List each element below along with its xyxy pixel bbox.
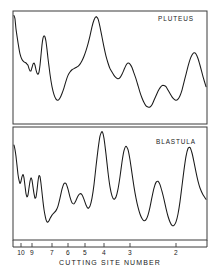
trace-line-blastula	[14, 132, 206, 226]
x-axis-ticks: 109765432	[17, 243, 178, 256]
x-tick-label: 9	[30, 249, 34, 256]
panel-label-pluteus: PLUTEUS	[158, 15, 194, 22]
x-tick-label: 2	[174, 249, 178, 256]
x-tick-label: 4	[102, 249, 106, 256]
x-tick-label: 6	[66, 249, 70, 256]
figure-container: PLUTEUS BLASTULA 109765432 CUTTING SITE …	[0, 0, 222, 272]
x-axis-title: CUTTING SITE NUMBER	[59, 259, 161, 266]
x-tick-label: 7	[50, 249, 54, 256]
x-tick-label: 5	[83, 249, 87, 256]
densitometer-plot: PLUTEUS BLASTULA 109765432 CUTTING SITE …	[0, 0, 222, 272]
panel-label-blastula: BLASTULA	[156, 138, 196, 145]
x-tick-label: 3	[128, 249, 132, 256]
trace-line-pluteus	[14, 16, 206, 108]
x-tick-label: 10	[17, 249, 25, 256]
